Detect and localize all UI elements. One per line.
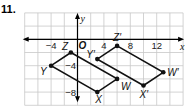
x-tick-label: 12 xyxy=(151,40,162,51)
vertex-point xyxy=(69,50,74,55)
x-tick-label: 8 xyxy=(128,40,133,51)
coordinate-graph: xyO−44812−4−8 ZWXYZ′W′X′Y′ xyxy=(0,0,187,111)
y-tick-label: −4 xyxy=(65,60,76,71)
vertex-label: Y xyxy=(40,66,48,77)
y-axis-label: y xyxy=(80,13,86,24)
x-axis-label: x xyxy=(179,41,185,52)
x-tick-label: −4 xyxy=(46,40,57,51)
vertex-label: Z xyxy=(61,41,69,52)
y-axis-arrow-up-icon xyxy=(75,13,80,19)
vertex-point xyxy=(115,77,120,82)
vertex-label: X xyxy=(94,94,102,105)
y-tick-label: −8 xyxy=(65,87,76,98)
x-tick-label: 4 xyxy=(101,40,106,51)
parallelogram-outline xyxy=(51,53,117,93)
vertex-point xyxy=(95,57,100,62)
x-axis-arrow-left-icon xyxy=(23,37,29,42)
vertex-label: X′ xyxy=(139,89,150,100)
vertex-label: W xyxy=(121,81,132,92)
vertex-point xyxy=(115,44,120,49)
vertex-point xyxy=(161,70,166,75)
vertex-label: Y′ xyxy=(86,49,96,60)
vertex-point xyxy=(49,63,54,68)
origin-label: O xyxy=(79,40,87,51)
grid-lines xyxy=(25,13,183,105)
vertex-point xyxy=(141,83,146,88)
vertex-label: Z′ xyxy=(112,32,122,43)
vertex-label: W′ xyxy=(167,67,179,78)
